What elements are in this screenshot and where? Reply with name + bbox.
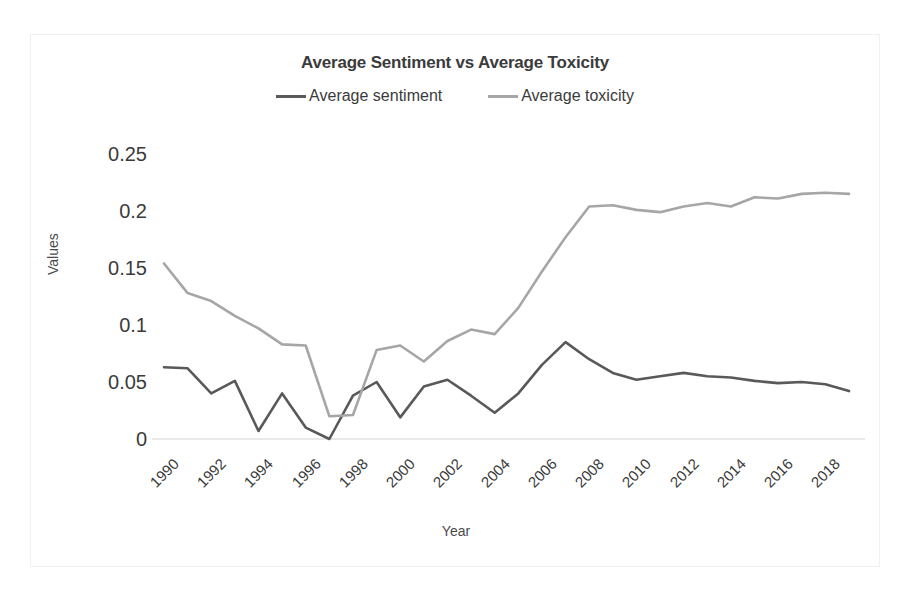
series-line-average-sentiment [164, 342, 849, 439]
plot-area: Values 00.050.10.150.20.25 1990199219941… [31, 35, 881, 568]
x-axis-title: Year [31, 523, 881, 539]
plot-lines [31, 35, 881, 568]
series-line-average-toxicity [164, 193, 849, 416]
chart-frame: Average Sentiment vs Average Toxicity Av… [30, 34, 880, 567]
